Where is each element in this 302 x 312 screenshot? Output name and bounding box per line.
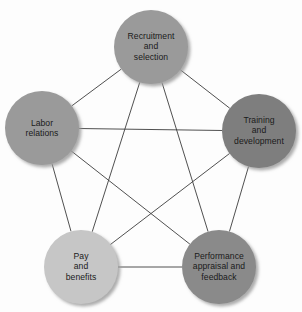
node-circle-pay-benefits[interactable] (44, 230, 118, 304)
edge-labor-relations-to-pay-benefits (52, 164, 71, 232)
edge-recruitment-to-labor-relations (72, 69, 122, 106)
edge-training-to-performance (229, 167, 248, 232)
edge-recruitment-to-pay-benefits (92, 82, 140, 231)
node-circle-training[interactable] (222, 94, 296, 168)
edge-recruitment-to-performance (162, 82, 208, 231)
hr-functions-diagram: RecruitmentandselectionLaborrelationsTra… (0, 0, 302, 312)
node-circle-labor-relations[interactable] (5, 91, 79, 165)
node-circle-recruitment[interactable] (114, 10, 188, 84)
diagram-canvas (0, 0, 302, 312)
edge-labor-relations-to-training (79, 129, 222, 131)
node-circle-performance[interactable] (182, 230, 256, 304)
edge-recruitment-to-training (180, 70, 230, 109)
node-layer (5, 10, 296, 304)
